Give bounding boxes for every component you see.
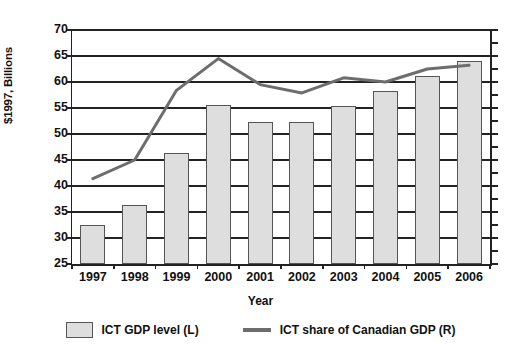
x-tick-label-2004: 2004 <box>372 270 400 284</box>
x-tick-label-2005: 2005 <box>413 270 441 284</box>
bar-2002 <box>289 122 314 264</box>
y-tick-mark-65 <box>67 55 72 57</box>
x-tick-label-1998: 1998 <box>121 270 149 284</box>
x-axis-label: Year <box>0 294 521 308</box>
line-swatch-icon <box>243 328 271 331</box>
bar-2004 <box>373 91 398 264</box>
y-axis-label: $1997, Billions <box>2 4 14 124</box>
y-axis-line <box>71 30 73 264</box>
x-tick-mark-edge <box>364 264 366 269</box>
legend-item-line: ICT share of Canadian GDP (R) <box>243 323 456 337</box>
x-tick-mark-edge <box>447 264 449 269</box>
gridline-70 <box>72 29 490 31</box>
right-tick-mark <box>490 146 498 148</box>
x-tick-mark-edge <box>280 264 282 269</box>
right-tick-mark <box>490 68 498 70</box>
x-tick-mark-edge <box>322 264 324 269</box>
right-tick-mark <box>490 211 498 213</box>
y-tick-label-65: 65 <box>32 49 68 62</box>
x-tick-mark-edge <box>238 264 240 269</box>
x-tick-mark-edge <box>113 264 115 269</box>
bar-2000 <box>206 105 231 264</box>
right-tick-mark <box>490 55 498 57</box>
x-tick-label-2001: 2001 <box>246 270 274 284</box>
x-tick-label-2000: 2000 <box>204 270 232 284</box>
right-tick-mark <box>490 172 498 174</box>
x-tick-label-2002: 2002 <box>288 270 316 284</box>
right-tick-mark <box>490 29 498 31</box>
chart-legend: ICT GDP level (L) ICT share of Canadian … <box>0 322 521 338</box>
chart-container: $1997, Billions 70656055504540353025 199… <box>0 0 521 344</box>
right-tick-mark <box>490 263 498 265</box>
right-tick-mark <box>490 133 498 135</box>
y-tick-mark-55 <box>67 107 72 109</box>
y-tick-mark-35 <box>67 211 72 213</box>
bar-1999 <box>164 153 189 264</box>
right-tick-mark <box>490 250 498 252</box>
legend-item-bar: ICT GDP level (L) <box>66 322 199 338</box>
right-tick-mark <box>490 198 498 200</box>
x-tick-mark-edge <box>406 264 408 269</box>
y-tick-label-25: 25 <box>32 257 68 270</box>
y-tick-label-50: 50 <box>32 127 68 140</box>
y-tick-mark-40 <box>67 185 72 187</box>
y-tick-mark-70 <box>67 29 72 31</box>
x-tick-label-2003: 2003 <box>330 270 358 284</box>
x-tick-mark-edge <box>155 264 157 269</box>
bar-2001 <box>248 122 273 264</box>
x-tick-label-1999: 1999 <box>163 270 191 284</box>
y-tick-mark-60 <box>67 81 72 83</box>
right-tick-mark <box>490 159 498 161</box>
x-tick-label-1997: 1997 <box>79 270 107 284</box>
right-tick-mark <box>490 237 498 239</box>
right-tick-mark <box>490 42 498 44</box>
bar-2003 <box>331 106 356 264</box>
bar-1998 <box>122 205 147 264</box>
right-tick-mark <box>490 120 498 122</box>
plot-area <box>72 30 490 264</box>
bar-2005 <box>415 76 440 264</box>
y-tick-mark-50 <box>67 133 72 135</box>
y-tick-mark-30 <box>67 237 72 239</box>
legend-label-bar: ICT GDP level (L) <box>102 323 199 337</box>
right-tick-mark <box>490 94 498 96</box>
right-tick-mark <box>490 81 498 83</box>
y-tick-label-70: 70 <box>32 23 68 36</box>
bar-swatch-icon <box>66 322 93 338</box>
gridline-65 <box>72 55 490 57</box>
right-tick-mark <box>490 107 498 109</box>
y-tick-label-55: 55 <box>32 101 68 114</box>
right-tick-mark <box>490 224 498 226</box>
y-tick-label-60: 60 <box>32 75 68 88</box>
bar-1997 <box>80 225 105 264</box>
bar-2006 <box>457 61 482 264</box>
legend-label-line: ICT share of Canadian GDP (R) <box>280 323 456 337</box>
x-tick-label-2006: 2006 <box>455 270 483 284</box>
y-tick-mark-45 <box>67 159 72 161</box>
y-tick-label-40: 40 <box>32 179 68 192</box>
y-tick-label-35: 35 <box>32 205 68 218</box>
y-tick-label-30: 30 <box>32 231 68 244</box>
x-tick-mark-edge <box>71 264 73 269</box>
x-tick-mark-edge <box>197 264 199 269</box>
y-axis-tick-labels: 70656055504540353025 <box>24 0 68 344</box>
right-tick-mark <box>490 185 498 187</box>
y-tick-label-45: 45 <box>32 153 68 166</box>
x-tick-mark-2006 <box>489 264 491 269</box>
